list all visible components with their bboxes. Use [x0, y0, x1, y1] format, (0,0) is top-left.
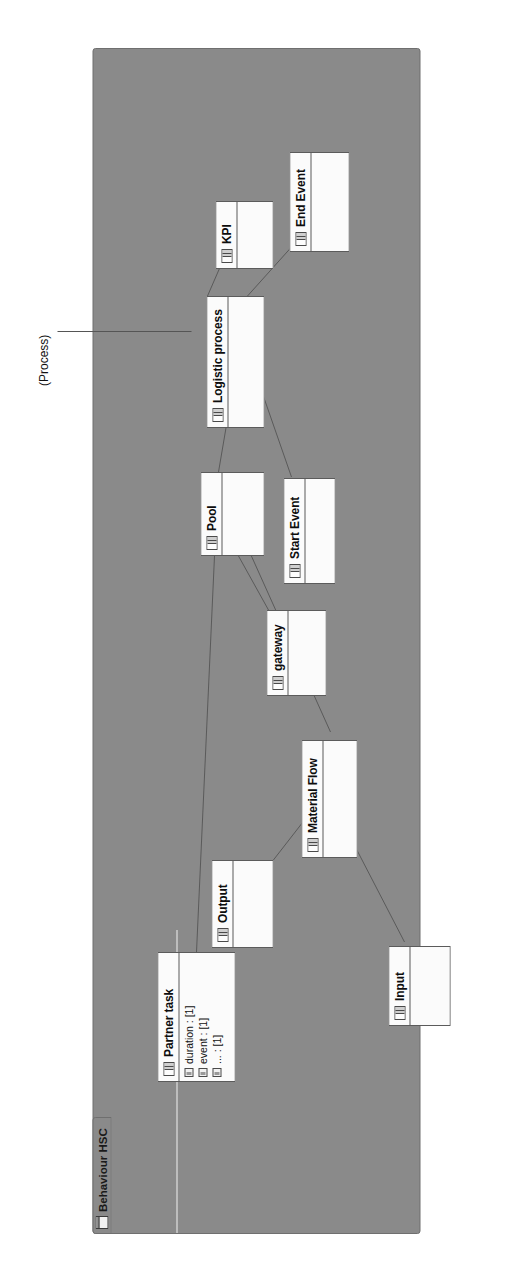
uml-class-icon — [394, 1006, 405, 1020]
node-logistic-process-title: Logistic process — [210, 309, 224, 403]
diagram-frame-label: Behaviour HSC — [96, 1128, 108, 1212]
node-output[interactable]: Output — [211, 860, 273, 948]
node-input-body — [409, 947, 449, 1025]
node-logistic-process[interactable]: Logistic process — [206, 296, 264, 428]
node-end-event[interactable]: End Event — [289, 152, 349, 252]
node-material-flow-body — [322, 741, 356, 857]
uml-class-icon — [307, 838, 318, 852]
node-logistic-process-header: Logistic process — [207, 297, 227, 427]
uml-class-icon — [272, 676, 283, 690]
node-pool-title: Pool — [204, 505, 218, 531]
attribute-icon — [198, 1068, 207, 1077]
node-gateway-body — [287, 611, 325, 695]
node-input-title: Input — [392, 972, 406, 1001]
node-kpi-header: KPI — [216, 202, 236, 268]
diagram-stage: Behaviour HSC (Process — [0, 0, 505, 1272]
annotation-leader-line — [57, 331, 191, 332]
node-start-event[interactable]: Start Event — [283, 478, 335, 584]
uml-class-icon — [221, 249, 232, 263]
attribute-icon — [212, 1068, 221, 1077]
node-pool[interactable]: Pool — [200, 472, 264, 556]
node-start-event-header: Start Event — [284, 479, 304, 583]
node-partner-task[interactable]: Partner task duration : [1] event : [1] … — [157, 952, 235, 1082]
node-input[interactable]: Input — [388, 946, 450, 1026]
attribute-label: duration : [1] — [182, 1006, 194, 1064]
node-partner-task-header: Partner task — [158, 953, 178, 1081]
attribute-icon — [184, 1068, 193, 1077]
attribute-row: ... : [1] — [209, 957, 223, 1077]
annotation-process-label: (Process) — [36, 335, 50, 386]
node-input-header: Input — [389, 947, 409, 1025]
attribute-label: ... : [1] — [210, 1035, 222, 1064]
node-pool-header: Pool — [201, 473, 221, 555]
node-partner-task-attributes: duration : [1] event : [1] ... : [1] — [178, 953, 234, 1081]
node-output-body — [232, 861, 272, 947]
node-material-flow-title: Material Flow — [305, 758, 319, 833]
attribute-label: event : [1] — [196, 1018, 208, 1064]
node-output-header: Output — [212, 861, 232, 947]
node-start-event-title: Start Event — [287, 497, 301, 559]
uml-class-icon — [163, 1062, 174, 1076]
node-output-title: Output — [215, 884, 229, 923]
node-logistic-process-body — [227, 297, 263, 427]
uml-class-icon — [212, 408, 223, 422]
node-end-event-body — [310, 153, 348, 251]
node-kpi[interactable]: KPI — [215, 201, 273, 269]
attribute-row: event : [1] — [195, 957, 209, 1077]
node-start-event-body — [304, 479, 334, 583]
node-partner-task-title: Partner task — [161, 989, 175, 1057]
diagram-frame-tab[interactable]: Behaviour HSC — [92, 1117, 111, 1234]
node-end-event-title: End Event — [293, 169, 307, 227]
uml-class-icon — [217, 928, 228, 942]
uml-class-icon — [206, 536, 217, 550]
node-gateway-header: gateway — [267, 611, 287, 695]
uml-class-icon — [289, 564, 300, 578]
uml-class-icon — [295, 232, 306, 246]
node-material-flow-header: Material Flow — [302, 741, 322, 857]
node-material-flow[interactable]: Material Flow — [301, 740, 357, 858]
diagram-icon — [95, 1216, 108, 1229]
attribute-row: duration : [1] — [181, 957, 195, 1077]
node-gateway[interactable]: gateway — [266, 610, 326, 696]
node-kpi-body — [236, 202, 272, 268]
node-gateway-title: gateway — [270, 624, 284, 671]
node-pool-body — [221, 473, 263, 555]
node-end-event-header: End Event — [290, 153, 310, 251]
node-kpi-title: KPI — [219, 224, 233, 244]
